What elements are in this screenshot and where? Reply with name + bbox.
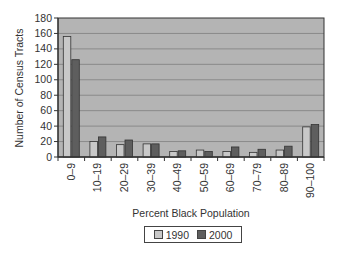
x-tick-label: 50–59 xyxy=(198,163,210,192)
y-tick-label: 60 xyxy=(40,104,52,116)
legend-item-2000: 2000 xyxy=(197,229,232,241)
y-tick-label: 80 xyxy=(40,89,52,101)
y-tick-label: 40 xyxy=(40,120,52,132)
x-tick-label: 0–9 xyxy=(65,163,77,181)
bar-1990-4 xyxy=(170,152,178,157)
legend-label-2000: 2000 xyxy=(209,229,232,241)
bar-1990-5 xyxy=(196,150,204,157)
bar-1990-3 xyxy=(143,144,151,157)
x-tick-label: 70–79 xyxy=(251,163,263,192)
bar-2000-2 xyxy=(125,140,133,157)
x-tick-label: 10–19 xyxy=(91,163,103,192)
x-tick-label: 30–39 xyxy=(145,163,157,192)
bar-1990-2 xyxy=(117,145,125,157)
bar-2000-4 xyxy=(178,151,186,157)
bar-2000-3 xyxy=(152,144,160,157)
bar-1990-6 xyxy=(223,152,231,157)
legend-item-1990: 1990 xyxy=(154,229,189,241)
y-tick-label: 20 xyxy=(40,135,52,147)
bar-2000-5 xyxy=(205,152,213,157)
y-axis: 020406080100120140160180 xyxy=(34,12,58,163)
bar-1990-9 xyxy=(303,127,311,157)
x-tick-label: 20–29 xyxy=(118,163,130,192)
legend-swatch-2000 xyxy=(197,230,206,239)
legend-swatch-1990 xyxy=(154,230,163,239)
x-tick-label: 90–100 xyxy=(304,163,316,198)
y-tick-label: 140 xyxy=(34,42,52,54)
bar-2000-9 xyxy=(311,125,319,157)
x-tick-label: 40–49 xyxy=(171,163,183,192)
plot-area xyxy=(58,18,324,157)
x-tick-label: 80–89 xyxy=(278,163,290,192)
legend: 1990 2000 xyxy=(144,226,242,243)
bar-2000-1 xyxy=(98,137,106,157)
bar-2000-0 xyxy=(72,60,80,157)
y-tick-label: 180 xyxy=(34,12,52,24)
bar-2000-8 xyxy=(285,146,293,157)
plot-background xyxy=(58,18,324,157)
y-tick-label: 0 xyxy=(46,151,52,163)
bar-chart: 020406080100120140160180 0–910–1920–2930… xyxy=(0,0,338,254)
x-axis-title: Percent Black Population xyxy=(132,207,249,219)
y-tick-label: 160 xyxy=(34,27,52,39)
bar-1990-1 xyxy=(90,142,98,157)
y-axis-title: Number of Census Tracts xyxy=(13,28,25,147)
x-tick-label: 60–69 xyxy=(224,163,236,192)
x-axis: 0–910–1920–2930–3940–4950–5960–6970–7980… xyxy=(58,157,324,198)
y-tick-label: 120 xyxy=(34,58,52,70)
bar-1990-8 xyxy=(276,150,284,157)
bar-1990-0 xyxy=(63,37,71,157)
legend-label-1990: 1990 xyxy=(166,229,189,241)
bar-2000-6 xyxy=(231,147,239,157)
y-tick-label: 100 xyxy=(34,73,52,85)
bar-2000-7 xyxy=(258,149,266,157)
